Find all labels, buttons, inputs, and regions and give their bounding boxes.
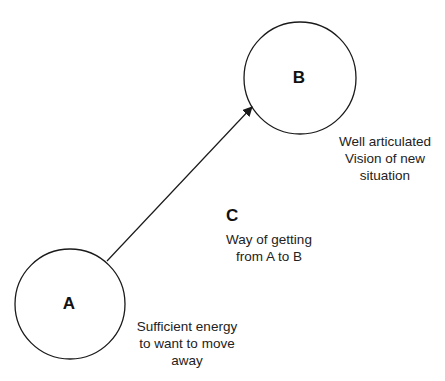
transition-caption: Way of getting from A to B xyxy=(214,231,324,265)
caption-line: Well articulated xyxy=(330,133,440,150)
caption-line: from A to B xyxy=(214,248,324,265)
caption-line: Sufficient energy xyxy=(129,318,245,335)
node-a-caption: Sufficient energy to want to move away xyxy=(129,318,245,369)
caption-line: Way of getting xyxy=(214,231,324,248)
node-a-label: A xyxy=(54,294,84,314)
caption-line: situation xyxy=(330,167,440,184)
caption-line: to want to move xyxy=(129,335,245,352)
caption-line: Vision of new xyxy=(330,150,440,167)
node-b-caption: Well articulated Vision of new situation xyxy=(330,133,440,184)
caption-line: away xyxy=(129,352,245,369)
transition-label: C xyxy=(226,206,238,226)
node-b-label: B xyxy=(284,68,314,88)
